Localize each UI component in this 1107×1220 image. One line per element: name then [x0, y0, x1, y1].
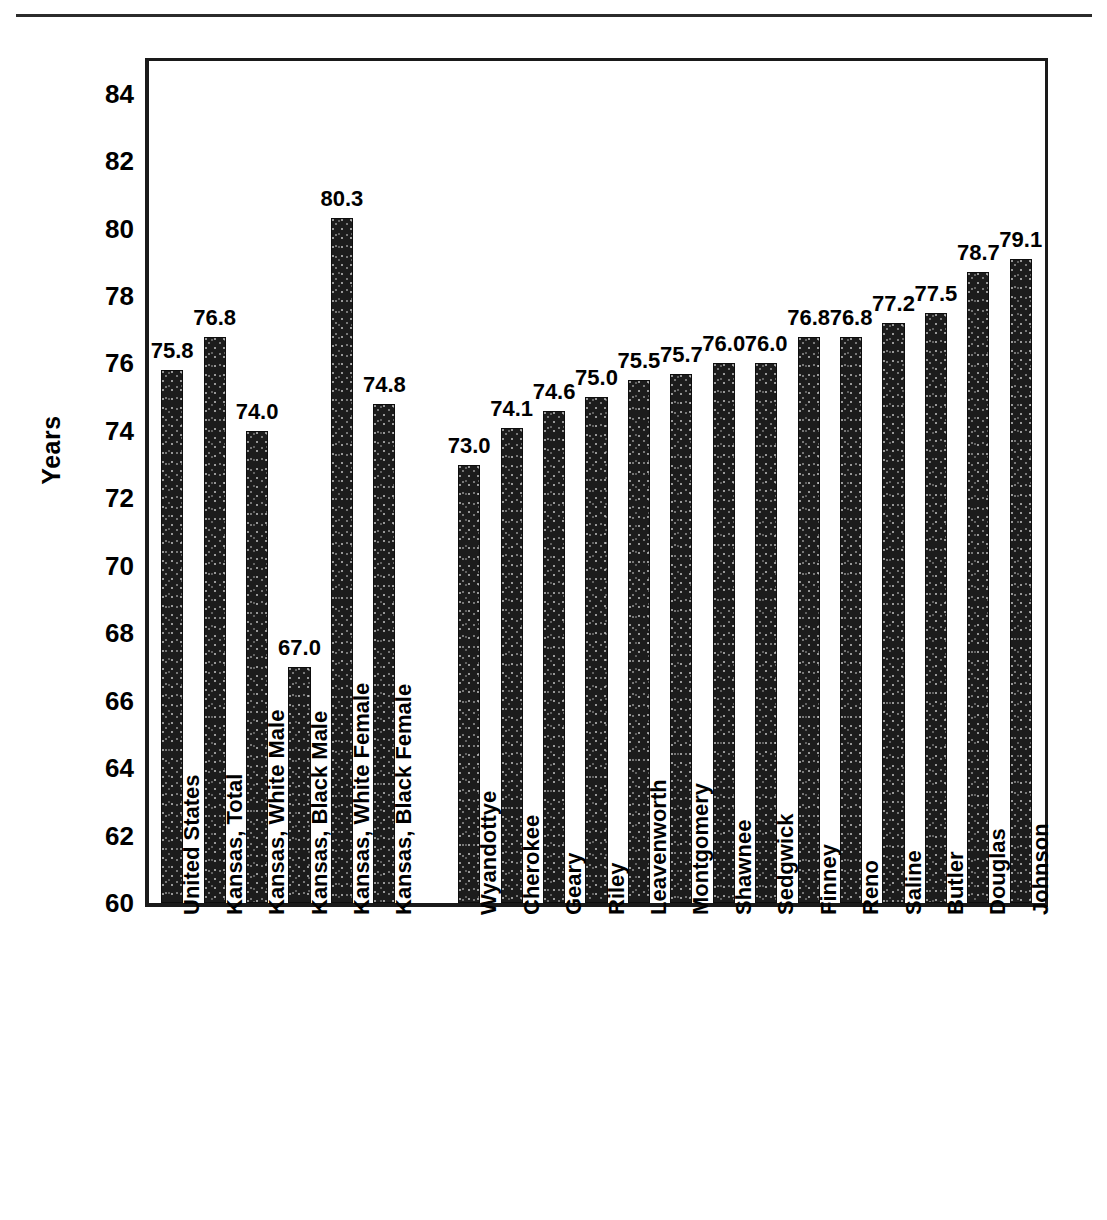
- bar-value-label: 76.0: [702, 333, 745, 355]
- bar-value-label: 78.7: [957, 242, 1000, 264]
- x-axis-label-finney: Finney: [818, 844, 840, 915]
- bar-value-label: 76.8: [193, 307, 236, 329]
- bar-rect: [1010, 259, 1032, 903]
- x-axis-label-kansas-black-female: Kansas, Black Female: [393, 684, 415, 915]
- x-axis-label-montgomery: Montgomery: [690, 783, 712, 915]
- x-axis-label-kansas-white-female: Kansas, White Female: [351, 683, 373, 915]
- x-axis-label-geary: Geary: [563, 853, 585, 915]
- bar-value-label: 75.5: [618, 350, 661, 372]
- y-axis-title: Years: [37, 390, 66, 510]
- x-axis-label-saline: Saline: [903, 850, 925, 915]
- x-axis-label-wyandottye: Wyandottye: [478, 791, 500, 915]
- bar-value-label: 74.0: [236, 401, 279, 423]
- bar-value-label: 76.0: [745, 333, 788, 355]
- bar-rect: [882, 323, 904, 903]
- y-axis-tick-68: 68: [78, 620, 134, 646]
- x-axis-tick-labels: United StatesKansas, TotalKansas, White …: [145, 915, 1048, 1205]
- x-axis-label-butler: Butler: [945, 851, 967, 915]
- bar-value-label: 79.1: [999, 229, 1042, 251]
- bar-value-label: 67.0: [278, 637, 321, 659]
- bar-value-label: 76.8: [830, 307, 873, 329]
- bar-value-label: 73.0: [448, 435, 491, 457]
- bar-riley: [585, 397, 607, 903]
- bar-value-label: 74.1: [490, 398, 533, 420]
- bar-rect: [967, 272, 989, 903]
- x-axis-label-reno: Reno: [860, 860, 882, 915]
- bar-value-label: 74.8: [363, 374, 406, 396]
- bar-value-label: 75.0: [575, 367, 618, 389]
- y-axis-tick-84: 84: [78, 81, 134, 107]
- y-axis-tick-76: 76: [78, 350, 134, 376]
- bar-value-label: 76.8: [787, 307, 830, 329]
- y-axis-tick-72: 72: [78, 485, 134, 511]
- y-axis-tick-78: 78: [78, 283, 134, 309]
- bar-douglas: [967, 272, 989, 903]
- x-axis-label-douglas: Douglas: [987, 828, 1009, 915]
- y-axis-tick-64: 64: [78, 755, 134, 781]
- bar-value-label: 77.5: [915, 283, 958, 305]
- x-axis-label-kansas-white-male: Kansas, White Male: [266, 710, 288, 915]
- bar-value-label: 80.3: [321, 188, 364, 210]
- bar-rect: [798, 337, 820, 903]
- life-expectancy-bar-chart: Years 60626466687072747678808284 75.876.…: [0, 0, 1107, 1220]
- y-axis-tick-62: 62: [78, 823, 134, 849]
- y-axis-tick-82: 82: [78, 148, 134, 174]
- bar-value-label: 77.2: [872, 293, 915, 315]
- x-axis-label-riley: Riley: [606, 862, 628, 915]
- x-axis-label-sedgwick: Sedgwick: [775, 814, 797, 915]
- bar-geary: [543, 411, 565, 903]
- y-axis-tick-60: 60: [78, 890, 134, 916]
- x-axis-label-johnson: Johnson: [1030, 823, 1052, 915]
- bar-johnson: [1010, 259, 1032, 903]
- x-axis-label-shawnee: Shawnee: [733, 820, 755, 915]
- y-axis-tick-66: 66: [78, 688, 134, 714]
- bar-rect: [925, 313, 947, 903]
- y-axis-tick-74: 74: [78, 418, 134, 444]
- bar-rect: [840, 337, 862, 903]
- x-axis-label-kansas-black-male: Kansas, Black Male: [309, 711, 331, 915]
- page-divider-rule: [16, 14, 1092, 17]
- x-axis-label-leavenworth: Leavenworth: [648, 779, 670, 915]
- x-axis-label-united-states: United States: [181, 774, 203, 915]
- bar-finney: [798, 337, 820, 903]
- bar-value-label: 75.7: [660, 344, 703, 366]
- bar-rect: [585, 397, 607, 903]
- y-axis-tick-80: 80: [78, 216, 134, 242]
- x-axis-label-cherokee: Cherokee: [521, 815, 543, 915]
- bar-value-label: 74.6: [533, 381, 576, 403]
- y-axis-tick-70: 70: [78, 553, 134, 579]
- bar-saline: [882, 323, 904, 903]
- bar-rect: [543, 411, 565, 903]
- bar-reno: [840, 337, 862, 903]
- x-axis-label-kansas-total: Kansas, Total: [224, 774, 246, 915]
- bar-butler: [925, 313, 947, 903]
- bar-value-label: 75.8: [151, 340, 194, 362]
